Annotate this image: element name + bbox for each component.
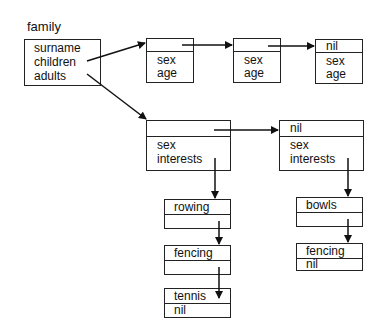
pointer-arrows — [0, 0, 384, 336]
